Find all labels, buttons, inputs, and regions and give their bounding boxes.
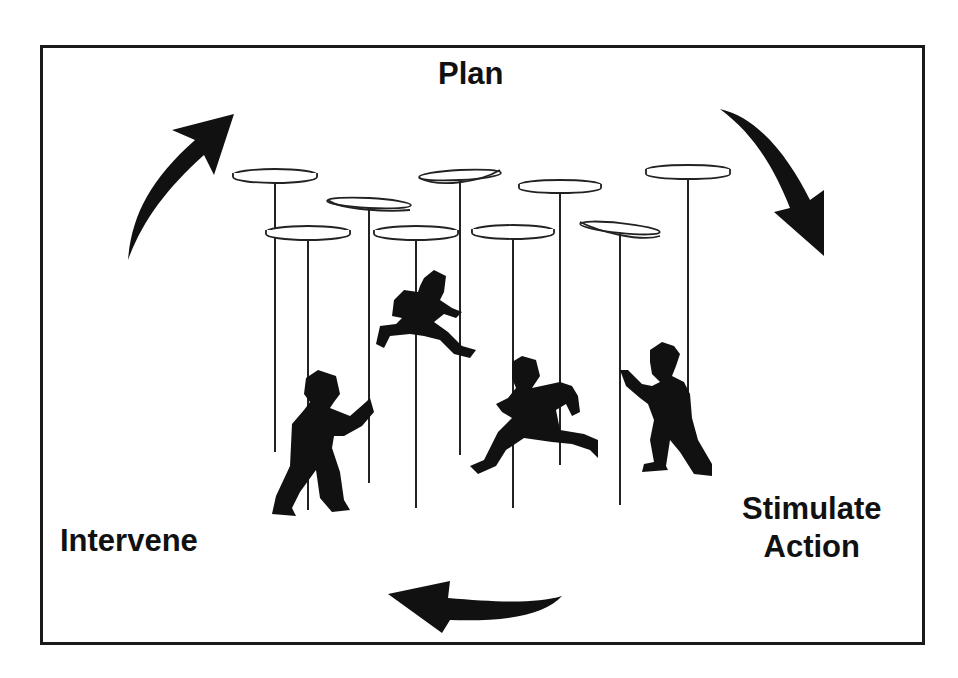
figure-pushing-left-icon <box>272 370 374 516</box>
illustration <box>0 0 958 678</box>
spinning-plates <box>233 165 730 240</box>
plate-icon <box>327 196 411 211</box>
plate-icon <box>419 168 501 183</box>
plate-icon <box>519 180 601 193</box>
plate-icon <box>233 169 317 183</box>
arrow-intervene-to-plan-icon <box>128 114 234 260</box>
plate-icon <box>374 226 458 240</box>
plate-icon <box>472 225 554 239</box>
arrow-plan-to-stimulate-icon <box>720 109 824 256</box>
plate-icon <box>580 219 661 238</box>
plate-icon <box>266 226 350 240</box>
figure-pushing-right-icon <box>620 342 712 476</box>
plate-icon <box>646 165 730 179</box>
arrow-stimulate-to-intervene-icon <box>388 581 562 633</box>
figure-running-center-icon <box>470 356 598 474</box>
